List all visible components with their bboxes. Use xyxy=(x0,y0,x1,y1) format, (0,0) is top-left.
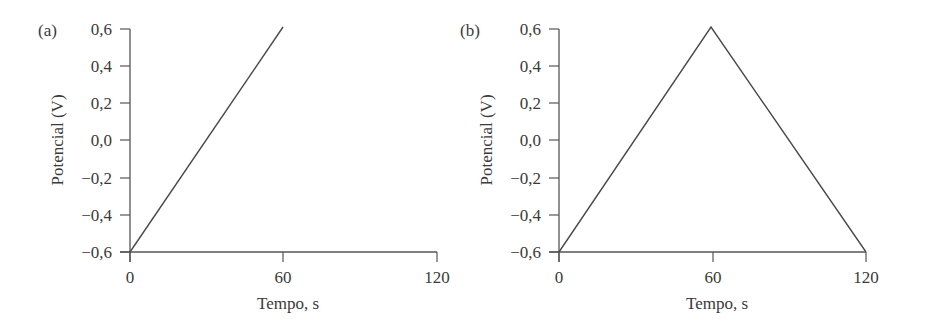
svg-text:0,2: 0,2 xyxy=(91,94,112,113)
data-line-a xyxy=(130,27,283,252)
y-axis-label-a: Potencial (V) xyxy=(48,94,67,185)
y-ticks-b xyxy=(549,29,559,252)
svg-text:−0,2: −0,2 xyxy=(81,169,112,188)
data-line-b xyxy=(559,27,866,252)
x-ticks-b xyxy=(559,252,866,262)
x-tick-labels-a: 0 60 120 xyxy=(126,268,450,287)
svg-text:0: 0 xyxy=(555,268,564,287)
x-tick-labels-b: 0 60 120 xyxy=(555,268,879,287)
svg-text:60: 60 xyxy=(705,268,722,287)
svg-text:120: 120 xyxy=(853,268,879,287)
chart-panel-b: (b) 0,6 0,4 0,2 0,0 −0,2 −0,4 −0,6 xyxy=(460,0,926,322)
svg-text:0,6: 0,6 xyxy=(91,20,112,39)
y-tick-labels-a: 0,6 0,4 0,2 0,0 −0,2 −0,4 −0,6 xyxy=(81,20,112,262)
svg-text:0,2: 0,2 xyxy=(520,94,541,113)
svg-text:0,6: 0,6 xyxy=(520,20,541,39)
x-axis-label-b: Tempo, s xyxy=(686,294,748,313)
svg-text:120: 120 xyxy=(424,268,450,287)
svg-text:0: 0 xyxy=(126,268,135,287)
svg-text:−0,6: −0,6 xyxy=(81,243,112,262)
svg-text:60: 60 xyxy=(275,268,292,287)
svg-text:0,4: 0,4 xyxy=(91,57,113,76)
y-ticks-a xyxy=(120,29,130,252)
chart-panel-a: (a) 0,6 0,4 0,2 0,0 −0,2 −0,4 −0,6 xyxy=(0,0,460,322)
svg-text:−0,4: −0,4 xyxy=(510,206,541,225)
panel-label-a: (a) xyxy=(38,21,57,40)
chart-b-svg: (b) 0,6 0,4 0,2 0,0 −0,2 −0,4 −0,6 xyxy=(460,0,926,322)
x-ticks-a xyxy=(130,252,437,262)
chart-a-svg: (a) 0,6 0,4 0,2 0,0 −0,2 −0,4 −0,6 xyxy=(0,0,460,322)
y-tick-labels-b: 0,6 0,4 0,2 0,0 −0,2 −0,4 −0,6 xyxy=(510,20,541,262)
svg-text:−0,2: −0,2 xyxy=(510,169,541,188)
panel-label-b: (b) xyxy=(460,21,480,40)
y-axis-label-b: Potencial (V) xyxy=(477,94,496,185)
svg-text:−0,6: −0,6 xyxy=(510,243,541,262)
svg-text:−0,4: −0,4 xyxy=(81,206,112,225)
x-axis-label-a: Tempo, s xyxy=(257,294,319,313)
svg-text:0,0: 0,0 xyxy=(91,131,112,150)
svg-text:0,0: 0,0 xyxy=(520,131,541,150)
svg-text:0,4: 0,4 xyxy=(520,57,542,76)
